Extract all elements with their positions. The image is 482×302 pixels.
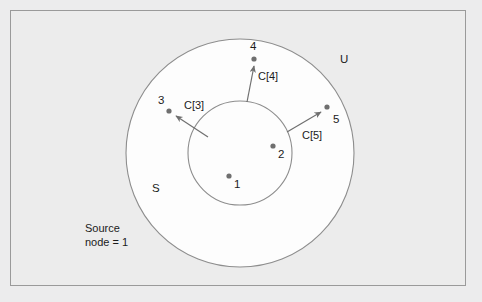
node-dot-4 [251,56,256,61]
node-label-4: 4 [250,40,256,53]
node-label-3: 3 [158,94,164,107]
edge-label-c3: C[3] [184,99,204,112]
node-dot-5 [324,104,329,109]
figure-container: 1 2 3 4 5 C[3] C[4] C[5] S U Source node… [0,0,482,302]
node-label-1: 1 [234,178,240,191]
diagram-canvas [0,0,482,302]
source-node-line2: node = 1 [85,235,128,249]
node-dot-3 [166,108,171,113]
set-label-s: S [152,182,160,195]
node-dot-2 [270,143,275,148]
node-label-2: 2 [278,148,284,161]
node-label-5: 5 [333,113,339,126]
set-label-u: U [340,53,348,66]
node-dot-1 [226,173,231,178]
edge-label-c4: C[4] [258,70,278,83]
source-node-line1: Source [85,221,120,235]
edge-label-c5: C[5] [302,129,322,142]
